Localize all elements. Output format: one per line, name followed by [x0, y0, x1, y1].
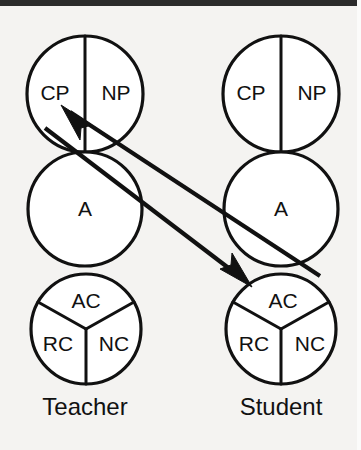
- teacher-adult-circle[interactable]: A: [28, 152, 142, 266]
- student-child-circle[interactable]: AC RC NC: [226, 274, 336, 384]
- teacher-ego-state-nc: NC: [99, 332, 129, 355]
- teacher-ego-state-cp: CP: [40, 81, 69, 104]
- teacher-ego-state-ac: AC: [71, 289, 100, 312]
- student-ego-state-np: NP: [297, 81, 326, 104]
- student-ego-state-cp: CP: [236, 81, 265, 104]
- teacher-parent-circle[interactable]: CP NP: [27, 36, 143, 152]
- student-ego-state-nc: NC: [295, 332, 325, 355]
- teacher-ego-state-a: A: [78, 197, 92, 220]
- column-teacher: CP NP A AC RC NC Teacher: [27, 36, 143, 420]
- teacher-ego-state-rc: RC: [43, 332, 73, 355]
- person-label-student: Student: [240, 393, 323, 420]
- figure-canvas: CP NP A AC RC NC Teacher: [0, 0, 361, 450]
- teacher-child-circle[interactable]: AC RC NC: [31, 274, 141, 384]
- student-ego-state-rc: RC: [239, 332, 269, 355]
- student-parent-circle[interactable]: CP NP: [223, 36, 339, 152]
- stimulus-vector-arrowhead: [220, 253, 252, 287]
- column-student: CP NP A AC RC NC Student: [223, 36, 339, 420]
- student-ego-state-ac: AC: [268, 289, 297, 312]
- ego-state-diagram: CP NP A AC RC NC Teacher: [0, 0, 361, 450]
- teacher-ego-state-np: NP: [101, 81, 130, 104]
- student-ego-state-a: A: [274, 197, 288, 220]
- person-label-teacher: Teacher: [42, 393, 127, 420]
